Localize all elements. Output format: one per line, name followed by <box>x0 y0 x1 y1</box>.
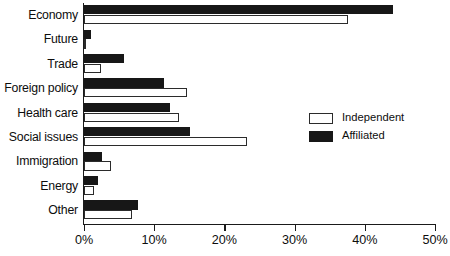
bar-independent <box>84 64 101 73</box>
x-axis-tick-label: 10% <box>142 233 167 247</box>
bar-affiliated <box>84 54 124 63</box>
category-label: Trade <box>0 57 78 71</box>
bar-independent <box>84 88 187 97</box>
x-axis-tick <box>154 225 155 231</box>
chart-row: Other <box>84 198 435 222</box>
bar-affiliated <box>84 5 393 14</box>
chart-row: Economy <box>84 3 435 27</box>
x-axis-tick <box>295 225 296 231</box>
legend-label-affiliated: Affiliated <box>342 129 385 141</box>
category-label: Foreign policy <box>0 81 78 95</box>
bar-independent <box>84 15 348 24</box>
x-axis-tick <box>435 225 436 231</box>
x-axis-tick-label: 0% <box>75 233 93 247</box>
bar-affiliated <box>84 30 91 39</box>
x-axis-tick <box>84 225 85 231</box>
bar-affiliated <box>84 127 190 136</box>
legend-swatch-independent <box>309 113 333 124</box>
x-axis-tick <box>224 225 225 231</box>
bar-affiliated <box>84 103 170 112</box>
legend-label-independent: Independent <box>342 111 404 123</box>
bar-independent <box>84 210 132 219</box>
bar-independent <box>84 186 94 195</box>
category-label: Other <box>0 203 78 217</box>
chart-row: Future <box>84 27 435 51</box>
bar-affiliated <box>84 152 102 161</box>
category-label: Social issues <box>0 130 78 144</box>
bar-affiliated <box>84 78 164 87</box>
x-axis-tick-label: 20% <box>212 233 237 247</box>
bar-independent <box>84 137 247 146</box>
x-axis-tick <box>365 225 366 231</box>
chart-row: Trade <box>84 52 435 76</box>
bar-independent <box>84 113 179 122</box>
bar-affiliated <box>84 200 138 209</box>
category-label: Health care <box>0 106 78 120</box>
category-label: Economy <box>0 8 78 22</box>
chart-row: Foreign policy <box>84 76 435 100</box>
chart-row: Immigration <box>84 149 435 173</box>
x-axis-tick-label: 50% <box>422 233 447 247</box>
chart-row: Energy <box>84 174 435 198</box>
legend-swatch-affiliated <box>309 131 333 142</box>
x-axis-tick-label: 30% <box>282 233 307 247</box>
bar-affiliated <box>84 176 98 185</box>
category-label: Immigration <box>0 154 78 168</box>
x-axis-tick-label: 40% <box>352 233 377 247</box>
category-label: Energy <box>0 179 78 193</box>
bar-independent <box>84 161 111 170</box>
category-label: Future <box>0 32 78 46</box>
bar-chart: EconomyFutureTradeForeign policyHealth c… <box>0 0 450 256</box>
bar-independent <box>84 39 86 48</box>
